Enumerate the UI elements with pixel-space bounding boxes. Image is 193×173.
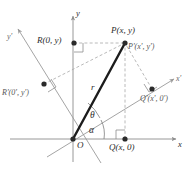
point-r-prime-label: R'(0', y')	[2, 89, 29, 97]
x-prime-axis-label: x'	[176, 75, 181, 83]
alpha-arc	[101, 120, 104, 139]
dot-point-q	[122, 136, 127, 141]
dot-origin	[70, 136, 75, 141]
dot-point-rprime	[41, 81, 46, 86]
point-p-prime-label: P'(x', y')	[128, 43, 154, 51]
y-prime-axis-label: y'	[7, 33, 12, 41]
angle-theta-label: θ	[90, 111, 95, 121]
dot-point-r	[71, 40, 76, 45]
point-q-label: Q(x, 0)	[109, 143, 135, 152]
point-r-label: R(0, y)	[37, 36, 62, 45]
x-axis-label: x	[178, 140, 182, 149]
point-q-prime-label: Q'(x', 0')	[140, 95, 168, 103]
y-prime-axis-line	[18, 29, 101, 163]
dot-point-p	[122, 40, 127, 45]
angle-alpha-label: α	[89, 126, 94, 136]
origin-label: O	[77, 141, 84, 150]
geometry-figure: y x y' x' O P(x, y) P'(x', y') R(0, y) Q…	[0, 0, 193, 173]
radius-label: r	[91, 83, 95, 92]
right-angle-marks	[48, 43, 157, 139]
y-axis-label: y	[76, 9, 80, 18]
figure-canvas	[0, 0, 193, 173]
dot-point-qprime	[149, 86, 154, 91]
point-p-label: P(x, y)	[111, 26, 135, 35]
